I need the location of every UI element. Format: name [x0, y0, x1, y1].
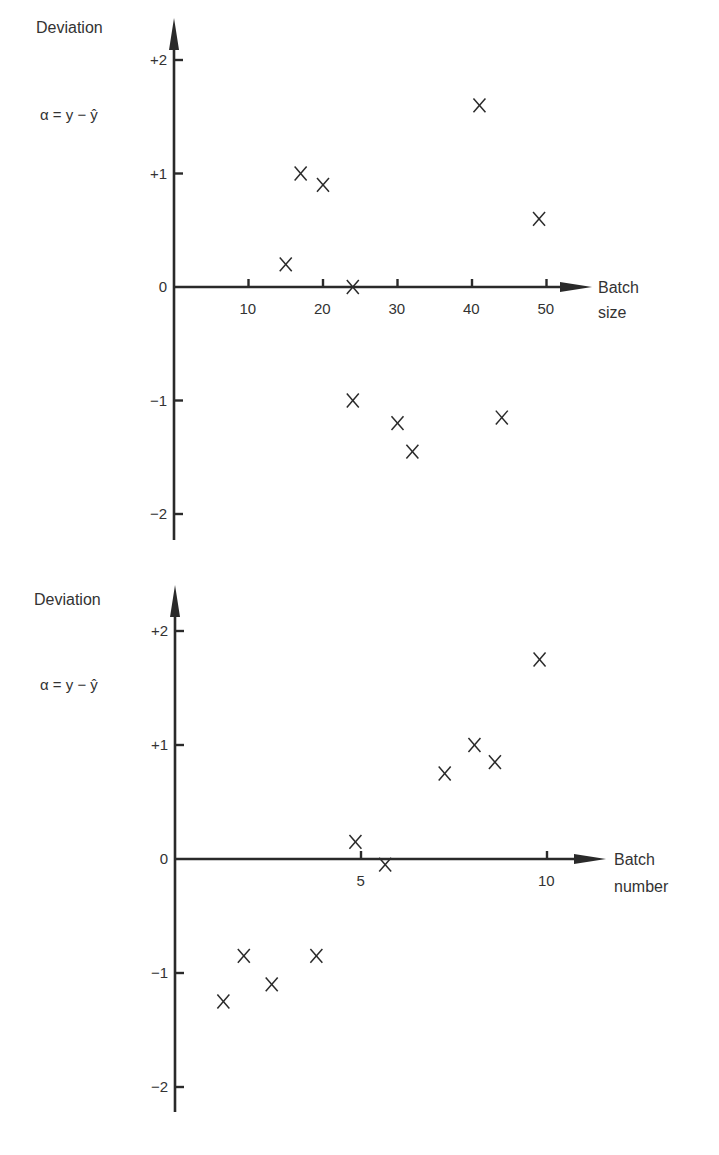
x-tick-label: 40: [463, 301, 480, 316]
y-axis-formula: α = y − ŷ: [40, 677, 98, 692]
data-point-x-marker-icon: [392, 416, 404, 430]
data-point-x-marker-icon: [295, 167, 307, 181]
y-tick-label: −2: [151, 1079, 168, 1094]
y-axis-title: Deviation: [34, 592, 101, 608]
data-point-x-marker-icon: [489, 755, 501, 769]
y-tick-label: −2: [150, 506, 167, 521]
data-point-x-marker-icon: [468, 738, 480, 752]
x-axis-title-line1: Batch: [614, 852, 655, 868]
data-point-x-marker-icon: [406, 445, 418, 459]
data-point-x-marker-icon: [317, 178, 329, 192]
y-tick-label: +2: [150, 52, 167, 67]
y-tick-label: −1: [151, 965, 168, 980]
data-point-x-marker-icon: [439, 767, 451, 781]
data-point-x-marker-icon: [280, 257, 292, 271]
x-tick-label: 20: [314, 301, 331, 316]
data-point-x-marker-icon: [534, 653, 546, 667]
data-point-x-marker-icon: [310, 949, 322, 963]
x-axis-arrow-icon: [574, 854, 606, 864]
chart-batch-number: Deviation α = y − ŷ Batch number +2+10−1…: [0, 570, 719, 1155]
y-axis-arrow-icon: [169, 18, 179, 50]
data-point-x-marker-icon: [347, 394, 359, 408]
x-tick-label: 50: [538, 301, 555, 316]
chart-batch-size: Deviation α = y − ŷ Batch size +2+10−1−2…: [0, 0, 719, 570]
x-axis-arrow-icon: [560, 282, 592, 292]
data-point-x-marker-icon: [266, 978, 278, 992]
y-tick-label: −1: [150, 393, 167, 408]
y-axis-title: Deviation: [36, 20, 103, 36]
data-point-x-marker-icon: [238, 949, 250, 963]
x-tick-label: 5: [357, 873, 365, 888]
y-tick-label: 0: [159, 279, 167, 294]
y-axis-formula: α = y − ŷ: [40, 107, 98, 122]
x-axis-title-line2: size: [598, 305, 626, 321]
y-axis-arrow-icon: [170, 585, 180, 617]
data-point-x-marker-icon: [533, 212, 545, 226]
y-tick-label: +1: [150, 166, 167, 181]
y-tick-label: +1: [151, 737, 168, 752]
plot-area-batch-number: [0, 570, 719, 1155]
x-tick-label: 10: [538, 873, 555, 888]
x-axis-title-line2: number: [614, 879, 668, 895]
data-point-x-marker-icon: [496, 411, 508, 425]
data-point-x-marker-icon: [473, 99, 485, 113]
x-axis-title-line1: Batch: [598, 280, 639, 296]
data-point-x-marker-icon: [217, 995, 229, 1009]
data-point-x-marker-icon: [349, 835, 361, 849]
x-tick-label: 30: [389, 301, 406, 316]
x-tick-label: 10: [240, 301, 257, 316]
y-tick-label: 0: [160, 851, 168, 866]
y-tick-label: +2: [151, 623, 168, 638]
